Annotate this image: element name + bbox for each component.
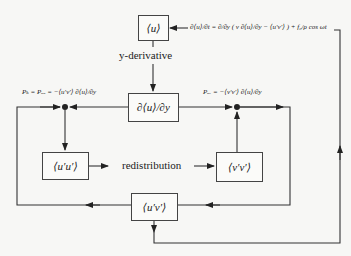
label-y-derivative: y-derivative (119, 49, 172, 61)
node-vv-stress-label: ⟨v′v′⟩ (228, 161, 251, 174)
node-mean-gradient: ∂⟨u⟩/∂y (128, 93, 179, 122)
equation-production-uv: Pᵤᵥ = −⟨v′v′⟩ ∂⟨u⟩/∂y (203, 88, 262, 96)
node-mean-velocity-label: ⟨u⟩ (146, 22, 160, 35)
junction-right (234, 104, 240, 110)
node-uu-stress: ⟨u′u′⟩ (42, 152, 89, 180)
node-mean-gradient-label: ∂⟨u⟩/∂y (137, 101, 170, 114)
node-uv-stress: ⟨u′v′⟩ (131, 193, 178, 221)
equation-momentum: ∂⟨u⟩/∂t = ∂/∂y ( ν ∂⟨u⟩/∂y − ⟨u′v′⟩ ) + … (190, 23, 327, 31)
node-mean-velocity: ⟨u⟩ (138, 15, 169, 41)
node-uu-stress-label: ⟨u′u′⟩ (53, 160, 77, 173)
label-redistribution: redistribution (122, 159, 181, 171)
node-vv-stress: ⟨v′v′⟩ (216, 152, 263, 182)
equation-production-k: Pₖ = Pᵤᵤ = −⟨u′v′⟩ ∂⟨u⟩/∂y (22, 88, 96, 96)
node-uv-stress-label: ⟨u′v′⟩ (143, 201, 167, 214)
junction-left (62, 104, 68, 110)
